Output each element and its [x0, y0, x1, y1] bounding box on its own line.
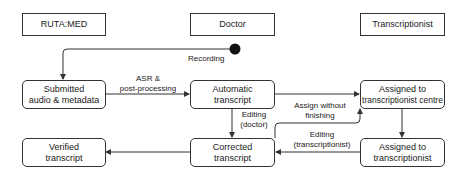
state-label-line2: transcript: [214, 95, 251, 105]
state-assigned-transcriptionist: Assigned totranscriptionist: [360, 138, 445, 167]
state-automatic-transcript: Automatictranscript: [190, 80, 275, 109]
transition-label-asr: ASR &post-processing: [115, 74, 181, 94]
state-label-line2: transcriptionist: [373, 153, 431, 163]
state-label-line1: Submitted: [44, 84, 85, 94]
start-node-icon: [230, 44, 241, 55]
lane-header-transcriptionist: Transcriptionist: [360, 13, 445, 36]
label-line1: Assign without: [294, 101, 346, 110]
lane-label: Transcriptionist: [372, 19, 433, 30]
transition-label-editing-doctor: Editing(doctor): [236, 110, 272, 130]
label-line2: (transcriptionist): [294, 140, 351, 149]
state-assigned-centre: Assigned totranscriptionist centre: [360, 80, 445, 109]
transition-label-recording: Recording: [188, 54, 224, 64]
label-line2: (doctor): [240, 120, 268, 129]
label-line2: finishing: [305, 111, 334, 120]
state-label-line1: Assigned to: [379, 84, 426, 94]
state-label-line1: Automatic: [212, 84, 252, 94]
state-label-line1: Corrected: [213, 142, 253, 152]
state-verified-transcript: Verifiedtranscript: [22, 138, 106, 167]
state-label-line2: audio & metadata: [29, 95, 100, 105]
label-line1: Editing: [310, 130, 334, 139]
state-submitted-audio: Submittedaudio & metadata: [22, 80, 106, 109]
lane-header-doctor: Doctor: [190, 13, 275, 36]
lane-label: RUTA:MED: [41, 19, 87, 30]
state-label-line2: transcript: [214, 153, 251, 163]
label-line2: post-processing: [120, 84, 176, 93]
label-line1: Editing: [242, 110, 266, 119]
state-label-line1: Verified: [49, 142, 79, 152]
state-label-line2: transcript: [45, 153, 82, 163]
label-line1: ASR &: [136, 74, 160, 83]
transition-label-assign-without-finishing: Assign withoutfinishing: [286, 101, 354, 121]
state-label-line2: transcriptionist centre: [362, 95, 443, 105]
state-label-line1: Assigned to: [379, 142, 426, 152]
lane-label: Doctor: [219, 19, 246, 30]
transition-label-editing-transcriptionist: Editing(transcriptionist): [288, 130, 356, 150]
state-corrected-transcript: Correctedtranscript: [190, 138, 275, 167]
lane-header-ruta-med: RUTA:MED: [22, 13, 106, 36]
